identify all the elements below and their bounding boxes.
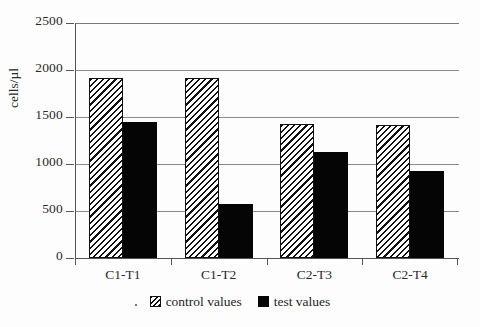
stray-mark <box>135 304 137 306</box>
bar-group-c1-t2 <box>185 23 253 258</box>
y-tick-label: 1500 <box>35 108 63 122</box>
bar-c2-t4-test <box>410 171 444 258</box>
y-tick-mark <box>66 164 74 165</box>
x-tick-2 <box>267 258 268 265</box>
bar-group-c1-t1 <box>89 23 157 258</box>
y-tick-mark <box>66 258 74 259</box>
x-tick-1 <box>171 258 172 265</box>
bars-layer <box>75 23 458 258</box>
y-tick-label: 500 <box>42 202 63 216</box>
y-tick-label: 0 <box>56 249 63 263</box>
y-axis: 05001000150020002500 <box>0 0 75 258</box>
bar-c2-t4-control <box>376 125 410 258</box>
bar-c1-t2-control <box>185 78 219 258</box>
x-axis-label-c2-t3: C2-T3 <box>297 268 332 282</box>
y-tick-label: 1000 <box>35 155 63 169</box>
x-tick-0 <box>75 258 76 265</box>
legend-swatch-icon <box>258 296 269 307</box>
x-axis-labels: C1-T1C1-T2C2-T3C2-T4 <box>75 268 458 288</box>
bar-c2-t3-test <box>314 152 348 258</box>
y-tick-mark <box>66 117 74 118</box>
y-tick-mark <box>66 211 74 212</box>
bar-c1-t1-test <box>123 122 157 258</box>
y-tick-label: 2500 <box>35 14 63 28</box>
x-tick-4 <box>457 258 458 265</box>
x-axis-label-c2-t4: C2-T4 <box>393 268 428 282</box>
x-axis-label-c1-t2: C1-T2 <box>201 268 236 282</box>
y-tick-mark <box>66 70 74 71</box>
bar-c1-t1-control <box>89 78 123 258</box>
legend-label: test values <box>274 295 331 309</box>
x-tick-3 <box>362 258 363 265</box>
legend-swatch-icon <box>150 296 161 307</box>
y-tick-mark <box>66 23 74 24</box>
bar-chart: cells/µl 05001000150020002500 C1-T1C1-T2… <box>0 0 480 327</box>
legend-entry-test: test values <box>258 295 331 309</box>
bar-c1-t2-test <box>219 204 253 258</box>
bar-c2-t3-control <box>280 124 314 258</box>
chart-legend: control valuestest values <box>0 295 480 309</box>
x-axis-label-c1-t1: C1-T1 <box>105 268 140 282</box>
bar-group-c2-t4 <box>376 23 444 258</box>
bar-group-c2-t3 <box>280 23 348 258</box>
y-tick-label: 2000 <box>35 61 63 75</box>
legend-entry-control: control values <box>150 295 242 309</box>
legend-label: control values <box>166 295 242 309</box>
